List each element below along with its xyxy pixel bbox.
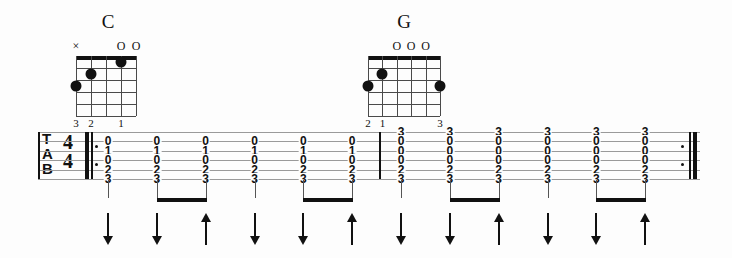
strum-down-arrow [542,213,554,245]
arrow-shaft [351,221,353,245]
chord-string-line [411,56,412,116]
arrow-shaft [644,221,646,245]
repeat-dot [681,145,684,148]
system-start-barline [38,132,40,179]
strum-down-arrow [297,213,309,245]
arrow-shaft [498,221,500,245]
chord-finger-dot [71,81,82,92]
string-open-icon: O [392,40,401,52]
strum-up-arrow [493,213,505,245]
arrow-head [494,213,504,222]
measure-barline [379,132,381,179]
chord-open-marks-c: ×OO [62,40,154,52]
repeat-dot [95,163,98,166]
arrow-shaft [107,213,109,237]
string-open-icon: O [132,40,141,52]
rhythm-stem [548,180,549,198]
rhythm-beam [157,198,207,202]
string-open-icon: O [421,40,430,52]
chord-fret-line [76,116,136,117]
time-signature-denominator: 4 [63,153,73,170]
chord-name-c: C [62,12,154,31]
chord-open-marks-g: OOO [358,40,450,52]
arrow-shaft [449,213,451,237]
repeat-end-thick-barline [693,132,697,179]
arrow-head [396,236,406,245]
rhythm-stem [255,180,256,198]
arrow-head [591,236,601,245]
tab-clef-letter-a: A [42,147,53,161]
chord-diagram-c: C ×OO 321 [62,12,154,120]
strum-down-arrow [151,213,163,245]
strum-up-arrow [639,213,651,245]
arrow-head [347,213,357,222]
strum-down-arrow [249,213,261,245]
arrow-head [201,213,211,222]
chord-string-line [382,56,383,116]
string-open-icon: O [117,40,126,52]
arrow-shaft [156,213,158,237]
chord-finger-dot [116,57,127,68]
chord-string-line [136,56,137,116]
chord-name-g: G [358,12,450,31]
chord-string-line [397,56,398,116]
rhythm-stem [108,180,109,198]
chord-finger-dot [86,69,97,80]
strum-up-arrow [200,213,212,245]
staff-line [38,179,700,180]
repeat-start-thin-barline [91,132,93,179]
staff-line [38,160,700,161]
string-muted-icon: × [73,40,80,52]
repeat-end-thin-barline [689,132,691,179]
chord-fret-line [368,104,440,105]
arrow-shaft [254,213,256,237]
arrow-shaft [547,213,549,237]
repeat-dot [95,145,98,148]
rhythm-stem [401,180,402,198]
chord-grid-c [76,56,136,116]
strum-down-arrow [444,213,456,245]
strum-down-arrow [102,213,114,245]
chord-finger-dot [377,69,388,80]
string-open-icon: O [407,40,416,52]
arrow-head [298,236,308,245]
staff-line [38,141,700,142]
strum-down-arrow [395,213,407,245]
arrow-shaft [302,213,304,237]
chord-finger-dot [363,81,374,92]
staff-line [38,132,700,133]
chord-string-line [426,56,427,116]
chord-string-line [91,56,92,116]
strum-down-arrow [590,213,602,245]
staff-line [38,151,700,152]
arrow-head [445,236,455,245]
staff-line [38,170,700,171]
arrow-shaft [595,213,597,237]
chord-finger-dot [435,81,446,92]
arrow-shaft [400,213,402,237]
rhythm-beam [450,198,500,202]
rhythm-beam [303,198,353,202]
time-signature-numerator: 4 [63,134,73,151]
arrow-head [543,236,553,245]
chord-fret-line [368,80,440,81]
strum-up-arrow [346,213,358,245]
chord-string-line [106,56,107,116]
arrow-head [250,236,260,245]
chord-nut [368,56,440,60]
chord-fret-line [368,92,440,93]
rhythm-beam [596,198,646,202]
chord-grid-g [368,56,440,116]
chord-diagram-g: G OOO 213 [358,12,450,120]
tablature-staff: T A B 4 4 010230102301023010230102301023… [0,126,732,196]
arrow-head [640,213,650,222]
arrow-head [103,236,113,245]
repeat-dot [681,163,684,166]
arrow-head [152,236,162,245]
arrow-shaft [205,221,207,245]
guitar-tab-sheet: C ×OO 321 G OOO 213 T A B 4 4 0102301023… [0,0,732,258]
repeat-start-thick-barline [85,132,89,179]
tab-clef-letter-t: T [42,132,51,146]
